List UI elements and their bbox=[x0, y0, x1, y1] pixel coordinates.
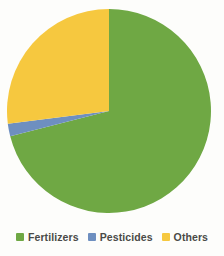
pie-svg bbox=[0, 0, 224, 220]
legend-label-pesticides: Pesticides bbox=[100, 232, 153, 243]
legend-item-others[interactable]: Others bbox=[162, 232, 208, 243]
chart-legend: Fertilizers Pesticides Others bbox=[0, 226, 224, 248]
legend-item-fertilizers[interactable]: Fertilizers bbox=[16, 232, 79, 243]
legend-label-fertilizers: Fertilizers bbox=[28, 232, 79, 243]
legend-label-others: Others bbox=[174, 232, 208, 243]
pie-slice-group bbox=[7, 9, 211, 213]
legend-swatch-icon-fertilizers bbox=[16, 233, 24, 241]
pie-chart-figure: Fertilizers Pesticides Others bbox=[0, 0, 224, 256]
legend-swatch-icon-others bbox=[162, 233, 170, 241]
pie-plot-area bbox=[0, 0, 224, 220]
pie-slice-others[interactable] bbox=[7, 9, 109, 124]
legend-swatch-icon-pesticides bbox=[88, 233, 96, 241]
legend-item-pesticides[interactable]: Pesticides bbox=[88, 232, 153, 243]
